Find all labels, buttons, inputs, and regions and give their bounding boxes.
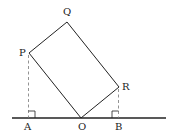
- label-p: P: [19, 47, 26, 58]
- rectangle-opqr: [29, 22, 119, 118]
- right-angle-marker-b: [112, 111, 119, 118]
- right-angle-marker-a: [29, 111, 36, 118]
- label-a: A: [23, 121, 32, 132]
- label-o: O: [78, 121, 86, 132]
- label-b: B: [115, 121, 122, 132]
- label-r: R: [122, 81, 130, 92]
- label-q: Q: [63, 6, 71, 17]
- geometry-diagram: Q P R A O B: [0, 0, 169, 136]
